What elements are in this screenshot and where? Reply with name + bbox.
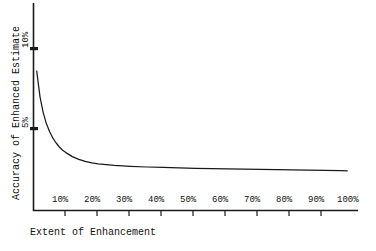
x-tick-label-90: 90% (308, 196, 324, 205)
x-tick-label-30: 30% (116, 196, 132, 205)
y-tick-mark-5 (30, 127, 38, 130)
x-axis-title: Extent of Enhancement (30, 228, 156, 238)
x-tick-label-60: 60% (212, 196, 228, 205)
y-tick-label-10: 10% (22, 32, 31, 48)
x-tick-label-50: 50% (180, 196, 196, 205)
x-tick-label-70: 70% (244, 196, 260, 205)
x-tick-label-10: 10% (52, 196, 68, 205)
x-tick-label-100: 100% (337, 196, 359, 205)
x-tick-label-20: 20% (84, 196, 100, 205)
x-tick-label-40: 40% (148, 196, 164, 205)
x-tick-label-80: 80% (276, 196, 292, 205)
plot-area (0, 0, 376, 251)
chart-figure: Accuracy of Enhanced Estimate 10% 5% 10%… (0, 0, 376, 251)
y-tick-label-5: 5% (22, 117, 31, 128)
data-series-line (37, 71, 348, 171)
y-tick-mark-10 (30, 47, 38, 50)
x-tick-marks (65, 211, 321, 216)
y-axis-title: Accuracy of Enhanced Estimate (12, 0, 26, 200)
